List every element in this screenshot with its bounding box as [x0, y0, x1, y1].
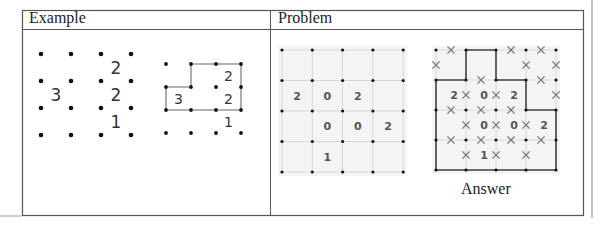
- grid-dot: [494, 108, 497, 111]
- grid-dot: [69, 52, 74, 57]
- grid-dot: [164, 62, 168, 66]
- grid-dot: [371, 109, 374, 112]
- problem-answer: 2020021: [432, 46, 560, 174]
- grid-dot: [341, 140, 344, 143]
- clue-number: 3: [51, 85, 62, 105]
- grid-dot: [341, 48, 344, 51]
- grid-dot: [239, 85, 243, 89]
- grid-dot: [311, 140, 314, 143]
- grid-dot: [39, 52, 44, 57]
- grid-dot: [524, 108, 527, 111]
- grid-dot: [464, 108, 467, 111]
- clue-number: 0: [510, 119, 518, 132]
- grid-dot: [464, 48, 467, 51]
- grid-dot: [494, 48, 497, 51]
- grid-dot: [402, 170, 405, 173]
- grid-dot: [341, 109, 344, 112]
- grid-dot: [554, 108, 557, 111]
- grid-dot: [554, 168, 557, 171]
- grid-dot: [129, 79, 134, 84]
- puzzle-figure: 2321 2321 2020021 2020021 Example Proble…: [0, 0, 610, 231]
- problem-puzzle: 2020021: [278, 46, 407, 176]
- grid-dot: [189, 131, 193, 135]
- grid-dot: [524, 138, 527, 141]
- grid-dot: [371, 140, 374, 143]
- grid-dot: [239, 108, 243, 112]
- clue-number: 1: [224, 114, 233, 130]
- figure-canvas: 2321 2321 2020021 2020021: [0, 0, 610, 231]
- example-solution: 2321: [164, 62, 243, 135]
- grid-dot: [129, 52, 134, 57]
- grid-dot: [311, 109, 314, 112]
- grid-dot: [554, 78, 557, 81]
- header-problem: Problem: [278, 9, 332, 27]
- grid-dot: [280, 79, 283, 82]
- grid-dot: [129, 106, 134, 111]
- grid-dot: [554, 48, 557, 51]
- grid-dot: [164, 131, 168, 135]
- clue-number: 1: [324, 151, 332, 164]
- grid-dot: [69, 106, 74, 111]
- grid-dot: [214, 85, 218, 89]
- grid-dot: [434, 168, 437, 171]
- grid-dot: [341, 170, 344, 173]
- grid-dot: [214, 108, 218, 112]
- clue-number: 3: [174, 91, 183, 107]
- grid-dot: [464, 168, 467, 171]
- grid-dot: [402, 140, 405, 143]
- grid-dot: [311, 170, 314, 173]
- clue-number: 2: [450, 89, 458, 102]
- grid-dot: [371, 48, 374, 51]
- grid-dot: [280, 109, 283, 112]
- clue-number: 0: [354, 120, 362, 133]
- grid-dot: [311, 48, 314, 51]
- grid-dot: [341, 79, 344, 82]
- clue-number: 2: [111, 85, 122, 105]
- grid-dot: [402, 109, 405, 112]
- grid-dot: [99, 133, 104, 138]
- grid-dot: [164, 108, 168, 112]
- clue-number: 2: [111, 58, 122, 78]
- grid-dot: [371, 79, 374, 82]
- clue-number: 0: [480, 89, 488, 102]
- grid-dot: [311, 79, 314, 82]
- grid-dot: [434, 48, 437, 51]
- answer-caption: Answer: [461, 180, 511, 198]
- grid-dot: [494, 78, 497, 81]
- clue-number: 1: [480, 149, 488, 162]
- grid-dot: [214, 62, 218, 66]
- grid-dot: [280, 48, 283, 51]
- grid-dot: [434, 108, 437, 111]
- grid-dot: [434, 138, 437, 141]
- grid-dot: [524, 48, 527, 51]
- grid-dot: [239, 62, 243, 66]
- grid-dot: [214, 131, 218, 135]
- grid-dot: [280, 140, 283, 143]
- grid-dot: [464, 138, 467, 141]
- clue-number: 0: [324, 90, 332, 103]
- grid-dot: [239, 131, 243, 135]
- grid-dot: [99, 79, 104, 84]
- grid-dot: [39, 106, 44, 111]
- clue-number: 2: [384, 120, 392, 133]
- grid-dot: [129, 133, 134, 138]
- grid-dot: [39, 79, 44, 84]
- clue-number: 2: [224, 91, 233, 107]
- grid-dot: [99, 52, 104, 57]
- grid-dot: [371, 170, 374, 173]
- grid-dot: [69, 79, 74, 84]
- grid-dot: [69, 133, 74, 138]
- grid-dot: [189, 62, 193, 66]
- clue-number: 2: [510, 89, 518, 102]
- grid-dot: [494, 138, 497, 141]
- grid-dot: [280, 170, 283, 173]
- grid-dot: [39, 133, 44, 138]
- grid-dot: [494, 168, 497, 171]
- clue-number: 1: [111, 112, 122, 132]
- clue-number: 2: [224, 68, 233, 84]
- grid-dot: [434, 78, 437, 81]
- clue-number: 0: [324, 120, 332, 133]
- clue-number: 0: [480, 119, 488, 132]
- grid-dot: [99, 106, 104, 111]
- grid-dot: [464, 78, 467, 81]
